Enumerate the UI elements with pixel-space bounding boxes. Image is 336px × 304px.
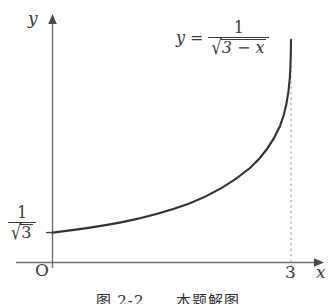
equation-label: y = 1 √3 − x xyxy=(176,20,269,56)
figure-container: y x O 3 1 √3 y = 1 √3 − x 图 2-2 xyxy=(0,0,336,304)
radicand: 3 xyxy=(20,224,33,241)
function-curve xyxy=(53,40,292,233)
fraction-denominator: √3 xyxy=(8,223,36,241)
equation-lhs: y xyxy=(176,30,185,46)
y-axis-arrowhead xyxy=(48,14,57,24)
equation-fraction: 1 √3 − x xyxy=(208,20,269,56)
figure-caption: 图 2-2 本题解图 xyxy=(0,289,336,304)
x-axis xyxy=(16,258,324,267)
equation-radical-group: √3 − x xyxy=(211,39,266,56)
x-tick-label-3: 3 xyxy=(285,264,296,281)
radical-group: √3 xyxy=(11,224,33,241)
graph-canvas xyxy=(0,0,336,304)
radical-sign-icon: √ xyxy=(11,223,21,243)
y-intercept-label: 1 √3 xyxy=(8,205,36,241)
fraction-one-over-root-three: 1 √3 xyxy=(8,205,36,241)
equation-radicand: 3 − x xyxy=(221,39,267,56)
y-axis xyxy=(48,14,57,268)
origin-label: O xyxy=(35,262,49,279)
y-axis-letter: y xyxy=(28,10,38,27)
equation-equals-sign: = xyxy=(190,30,203,46)
equation-denominator: √3 − x xyxy=(208,38,269,56)
x-axis-letter: x xyxy=(316,264,326,281)
radical-sign-icon: √ xyxy=(211,38,221,58)
